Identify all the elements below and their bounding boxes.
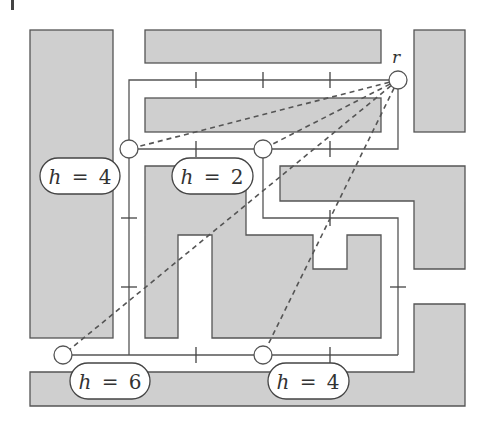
node-n3 xyxy=(54,346,72,364)
node-n1 xyxy=(120,140,138,158)
node-n2 xyxy=(254,140,272,158)
svg-text:h = 2: h = 2 xyxy=(180,165,243,189)
root-node xyxy=(389,71,407,89)
label-pill-h4-top: h = 4 xyxy=(40,158,120,194)
svg-text:h = 4: h = 4 xyxy=(48,165,111,189)
root-label: r xyxy=(392,47,401,67)
diagram-canvas: r h = 4 h = 2 h = 6 h = 4 xyxy=(0,0,496,425)
obstacle-top-bar xyxy=(145,30,381,63)
label-pill-h4-bottom: h = 4 xyxy=(268,363,349,399)
svg-text:h = 4: h = 4 xyxy=(276,370,339,394)
obstacle-top-right xyxy=(414,30,465,132)
svg-text:h = 6: h = 6 xyxy=(78,370,141,394)
label-pill-h6-bottom: h = 6 xyxy=(70,363,150,399)
node-n4 xyxy=(254,346,272,364)
label-pill-h2-top: h = 2 xyxy=(172,158,253,194)
